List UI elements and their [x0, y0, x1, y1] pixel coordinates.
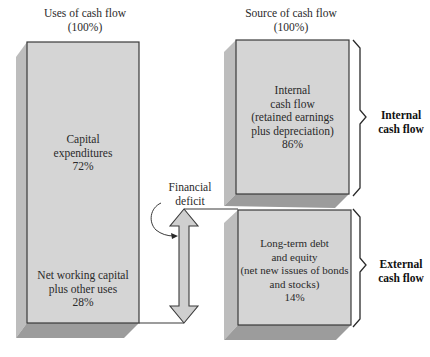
external-brace-icon: [353, 209, 366, 327]
internal-line1: Internal: [236, 84, 349, 98]
capex-line1: Capital: [27, 133, 139, 147]
source-title-text: Source of cash flow: [226, 7, 356, 21]
double-arrow-icon: [170, 209, 198, 323]
deficit-line1: Financial: [160, 181, 220, 195]
external-cash-flow-brace-label: External cash flow: [372, 258, 430, 285]
source-total-text: (100%): [226, 21, 356, 35]
external-label: Long-term debt and equity (net new issue…: [238, 237, 351, 305]
capex-pct: 72%: [27, 160, 139, 174]
external-brace-line1: External: [372, 258, 430, 272]
external-line3: (net new issues of bonds: [238, 264, 351, 278]
external-line4: and stocks): [238, 278, 351, 292]
financial-deficit-label: Financial deficit: [160, 181, 220, 208]
nwc-line1: Net working capital: [27, 269, 139, 283]
capex-line2: expenditures: [27, 147, 139, 161]
uses-total-text: (100%): [20, 21, 150, 35]
curved-arrowhead-icon: [171, 233, 178, 239]
external-line2: and equity: [238, 251, 351, 265]
external-line1: Long-term debt: [238, 237, 351, 251]
nwc-line2: plus other uses: [27, 283, 139, 297]
external-pct: 14%: [238, 291, 351, 305]
nwc-label: Net working capital plus other uses 28%: [27, 269, 139, 310]
uses-title-text: Uses of cash flow: [20, 7, 150, 21]
internal-line2: cash flow: [236, 98, 349, 112]
internal-cash-flow-brace-label: Internal cash flow: [372, 109, 430, 136]
internal-line4: plus depreciation): [236, 125, 349, 139]
internal-label: Internal cash flow (retained earnings pl…: [236, 84, 349, 152]
internal-pct: 86%: [236, 138, 349, 152]
deficit-line2: deficit: [160, 195, 220, 209]
internal-brace-line2: cash flow: [372, 123, 430, 137]
internal-brace-icon: [353, 40, 366, 196]
uses-title: Uses of cash flow (100%): [20, 7, 150, 34]
internal-line3: (retained earnings: [236, 111, 349, 125]
capex-label: Capital expenditures 72%: [27, 133, 139, 174]
internal-brace-line1: Internal: [372, 109, 430, 123]
source-title: Source of cash flow (100%): [226, 7, 356, 34]
external-brace-line2: cash flow: [372, 272, 430, 286]
nwc-pct: 28%: [27, 296, 139, 310]
